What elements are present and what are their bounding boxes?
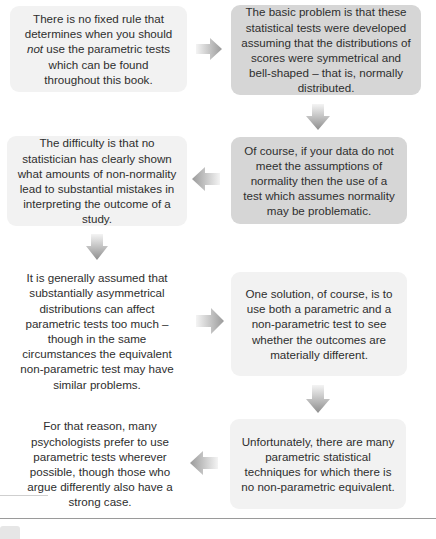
arrow-right-icon bbox=[196, 308, 224, 334]
flow-box-6-text: One solution, of course, is to use both … bbox=[241, 286, 397, 362]
flow-box-1-text: There is no fixed rule that determines w… bbox=[20, 11, 177, 87]
page-divider bbox=[0, 518, 436, 519]
flow-box-5: It is generally assumed that substantial… bbox=[5, 270, 189, 392]
divider-faint bbox=[0, 495, 48, 496]
arrow-left-icon bbox=[192, 167, 220, 191]
flow-box-4-text: The difficulty is that no statistician h… bbox=[17, 135, 177, 226]
flow-box-2: The basic problem is that these statisti… bbox=[231, 5, 421, 95]
flow-box-3: Of course, if your data do not meet the … bbox=[231, 137, 407, 224]
arrow-right-icon bbox=[196, 38, 222, 60]
arrow-down-icon bbox=[306, 104, 330, 130]
flow-box-7-text: Unfortunately, there are many parametric… bbox=[240, 434, 396, 495]
flow-box-2-text: The basic problem is that these statisti… bbox=[241, 4, 411, 95]
flow-box-5-text: It is generally assumed that substantial… bbox=[15, 270, 179, 392]
page-tab-marker bbox=[0, 526, 20, 539]
arrow-down-icon bbox=[86, 234, 108, 260]
flow-box-4: The difficulty is that no statistician h… bbox=[7, 136, 187, 226]
flow-box-6: One solution, of course, is to use both … bbox=[231, 272, 407, 376]
flow-box-3-text: Of course, if your data do not meet the … bbox=[241, 143, 397, 219]
arrow-down-icon bbox=[306, 385, 330, 413]
arrow-left-icon bbox=[190, 451, 218, 475]
flow-box-7: Unfortunately, there are many parametric… bbox=[230, 419, 406, 509]
flow-box-1: There is no fixed rule that determines w… bbox=[10, 6, 187, 92]
